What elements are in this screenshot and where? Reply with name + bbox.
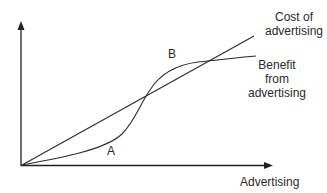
cost-label-line-2: advertising — [264, 24, 324, 38]
x-axis-label: Advertising — [240, 175, 299, 189]
cost-label-line-1: Cost of — [264, 10, 324, 24]
benefit-curve-label: Benefit from advertising — [242, 58, 312, 100]
x-axis-arrowhead — [264, 162, 273, 169]
benefit-label-line-2: from — [242, 72, 312, 86]
cost-line-label: Cost of advertising — [264, 10, 324, 38]
cost-line — [22, 36, 254, 165]
region-a-label: A — [107, 144, 115, 158]
benefit-label-line-1: Benefit — [242, 58, 312, 72]
y-axis-arrowhead — [18, 21, 25, 30]
benefit-label-line-3: advertising — [242, 86, 312, 100]
benefit-curve — [22, 56, 256, 165]
region-b-label: B — [168, 47, 176, 61]
